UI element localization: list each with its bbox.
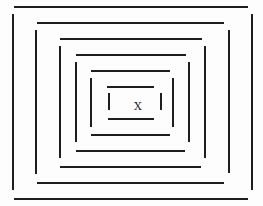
- rect-6-left-line: [108, 93, 110, 110]
- rect-4-bottom-line: [76, 150, 185, 152]
- rect-6-bottom-line: [108, 118, 154, 120]
- rect-2-top-line: [37, 22, 224, 24]
- rect-1-top-line: [14, 6, 248, 8]
- rect-5-left-line: [90, 78, 92, 127]
- rect-2-left-line: [35, 30, 37, 174]
- rect-4-right-line: [188, 62, 190, 142]
- rect-1-bottom-line: [14, 198, 248, 200]
- rect-6-right-line: [160, 93, 162, 110]
- rect-1-left-line: [12, 14, 14, 190]
- rect-5-top-line: [91, 70, 170, 72]
- rect-5-bottom-line: [91, 134, 170, 136]
- rect-4-top-line: [76, 54, 186, 56]
- rect-3-top-line: [60, 38, 202, 40]
- rect-1-right-line: [251, 14, 253, 190]
- rect-6-top-line: [107, 86, 154, 88]
- center-x-mark: X: [133, 101, 143, 113]
- rect-4-left-line: [75, 62, 77, 142]
- rect-3-right-line: [204, 46, 206, 158]
- nested-rectangles-diagram: X: [0, 0, 263, 206]
- rect-3-bottom-line: [60, 166, 201, 168]
- rect-3-left-line: [59, 46, 61, 158]
- rect-2-right-line: [228, 30, 230, 173]
- rect-2-bottom-line: [37, 182, 224, 184]
- rect-5-right-line: [172, 78, 174, 127]
